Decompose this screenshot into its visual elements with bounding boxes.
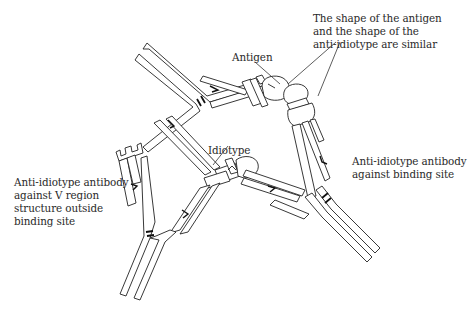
central-antibody: [154, 116, 305, 234]
idiotype-network-diagram: The shape of the antigen and the shape o…: [0, 0, 470, 318]
idiotype-label: Idiotype: [208, 144, 250, 157]
antigen-label: Antigen: [232, 51, 273, 64]
shape-similarity-note: The shape of the antigen and the shape o…: [313, 12, 442, 51]
anti-idiotype-v-region-label: Anti-idiotype antibody against V region …: [14, 176, 129, 228]
anti-idiotype-binding-site-label: Anti-idiotype antibody against binding s…: [352, 155, 467, 181]
